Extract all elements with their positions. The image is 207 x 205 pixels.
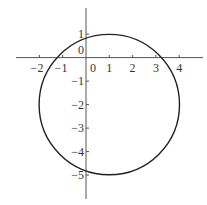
x-label: 3: [153, 61, 159, 75]
x-label: −2: [31, 61, 44, 75]
circle-plot: −2 −1 0 1 2 3 4 1 0 −1 −2 −3 −4 −5: [0, 0, 207, 205]
y-label: −5: [71, 168, 84, 182]
x-label: 2: [130, 61, 136, 75]
y-label: 0: [78, 43, 84, 57]
x-label: 1: [106, 61, 112, 75]
y-label: −3: [71, 121, 84, 135]
y-tick-labels: 1 0 −1 −2 −3 −4 −5: [71, 27, 84, 182]
y-label: −2: [71, 98, 84, 112]
x-label: −1: [55, 61, 68, 75]
x-label: 4: [176, 61, 182, 75]
y-label: −1: [71, 74, 84, 88]
x-label: 0: [90, 61, 96, 75]
y-label: −4: [71, 145, 84, 159]
